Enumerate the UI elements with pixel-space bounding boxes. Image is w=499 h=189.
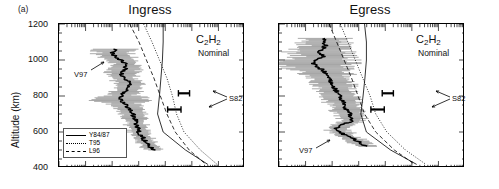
figure-root: (a) Altitude (km) 1200 1000 800 600 400 … [0,0,499,189]
panel-letter: (a) [18,4,28,14]
legend-key-dashed [66,148,86,155]
legend-item-y8487: Y84/87 [64,131,126,139]
species-label-ingress: C2H2 [196,33,221,45]
species-sub-2a: 2 [204,38,208,47]
species-sub-2b-2: 2 [436,38,440,47]
panel-title-ingress: Ingress [60,2,240,17]
legend-label-t95: T95 [86,139,100,147]
v97-label-ingress: V97 [74,70,87,79]
species-sub-2a-2: 2 [424,38,428,47]
condition-label-ingress: Nominal [198,48,229,58]
y-tick-400: 400 [22,162,48,172]
y-tick-600: 600 [22,126,48,136]
condition-label-egress: Nominal [418,48,449,58]
species-c-2: C [416,33,424,45]
species-label-egress: C2H2 [416,33,441,45]
y-tick-800: 800 [22,90,48,100]
legend-box: Y84/87 T95 L96 [63,128,127,158]
panel-title-egress: Egress [280,2,460,17]
y-axis-label: Altitude (km) [10,92,21,148]
legend-key-dotted [66,140,86,147]
species-c: C [196,33,204,45]
y-tick-1000: 1000 [22,54,48,64]
s82-label-ingress: S82 [229,94,242,103]
v97-label-egress: V97 [299,146,312,155]
species-sub-2b: 2 [216,38,220,47]
legend-label-l96: L96 [86,147,100,155]
legend-key-solid [66,132,86,139]
legend-item-l96: L96 [64,147,126,155]
legend-item-t95: T95 [64,139,126,147]
y-tick-1200: 1200 [22,19,48,29]
s82-label-egress: S82 [452,94,465,103]
legend-label-y8487: Y84/87 [86,131,110,139]
